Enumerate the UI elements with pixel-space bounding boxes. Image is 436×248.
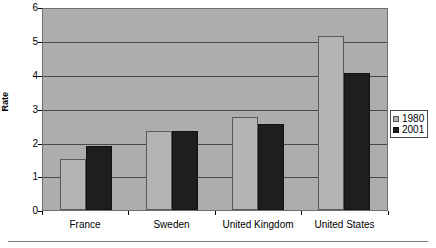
y-tick-label-5: 5 — [12, 37, 38, 47]
x-tick-mark-3 — [301, 211, 302, 215]
bar-united-kingdom-2001 — [258, 124, 284, 210]
bar-united-kingdom-1980 — [232, 117, 258, 210]
bottom-divider — [8, 241, 428, 242]
legend-label-1980: 1980 — [402, 113, 424, 124]
y-tick-label-1: 1 — [12, 172, 38, 182]
y-tick-label-0: 0 — [12, 206, 38, 216]
bar-sweden-2001 — [172, 131, 198, 210]
chart-legend: 1980 2001 — [390, 110, 428, 138]
x-category-label-united-kingdom: United Kingdom — [215, 219, 301, 230]
y-tick-label-4: 4 — [12, 71, 38, 81]
x-tick-mark-4 — [388, 211, 389, 215]
legend-item-1980: 1980 — [393, 113, 424, 124]
legend-swatch-2001-icon — [393, 127, 399, 133]
legend-swatch-1980-icon — [393, 116, 399, 122]
legend-label-2001: 2001 — [402, 124, 424, 135]
bar-france-2001 — [86, 146, 112, 210]
x-tick-mark-0 — [42, 211, 43, 215]
y-tick-label-3: 3 — [12, 105, 38, 115]
bar-chart-figure: Rate 6 5 4 3 2 1 0 France Sweden Un — [0, 0, 436, 248]
x-tick-mark-2 — [215, 211, 216, 215]
x-category-label-united-states: United States — [301, 219, 388, 230]
y-tick-label-2: 2 — [12, 139, 38, 149]
plot-area — [42, 8, 388, 211]
legend-item-2001: 2001 — [393, 124, 424, 135]
bar-sweden-1980 — [146, 131, 172, 210]
bar-france-1980 — [60, 159, 86, 210]
bar-united-states-1980 — [318, 36, 344, 210]
x-tick-mark-1 — [128, 211, 129, 215]
bar-united-states-2001 — [344, 73, 370, 210]
y-tick-label-6: 6 — [12, 3, 38, 13]
x-category-label-france: France — [42, 219, 128, 230]
x-category-label-sweden: Sweden — [128, 219, 215, 230]
